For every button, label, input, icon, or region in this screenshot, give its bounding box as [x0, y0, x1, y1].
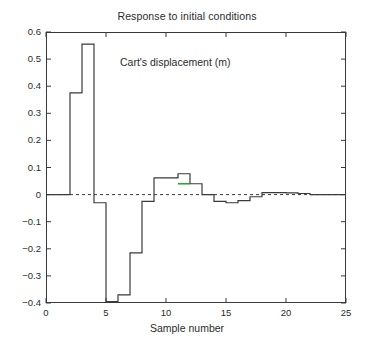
y-tick-label: −0.1 — [7, 216, 41, 227]
x-tick-label: 10 — [151, 307, 181, 318]
y-tick-label: 0.1 — [7, 162, 41, 173]
y-tick-label: 0.5 — [7, 53, 41, 64]
x-tick-marks — [46, 32, 346, 303]
chart-title: Response to initial conditions — [0, 10, 374, 22]
y-tick-label: 0 — [7, 189, 41, 200]
y-tick-marks — [46, 32, 346, 303]
figure-container: Response to initial conditions Cart's di… — [0, 0, 374, 348]
plot-frame — [47, 33, 346, 303]
y-tick-label: 0.3 — [7, 107, 41, 118]
x-tick-label: 5 — [91, 307, 121, 318]
y-tick-label: −0.2 — [7, 243, 41, 254]
x-tick-label: 25 — [331, 307, 361, 318]
y-tick-label: 0.4 — [7, 80, 41, 91]
x-tick-label: 20 — [271, 307, 301, 318]
y-tick-label: 0.2 — [7, 134, 41, 145]
data-stairstep-line — [46, 44, 346, 301]
plot-svg — [46, 32, 346, 303]
x-tick-label: 15 — [211, 307, 241, 318]
x-axis-label: Sample number — [0, 322, 374, 334]
x-tick-label: 0 — [31, 307, 61, 318]
y-tick-label: −0.3 — [7, 270, 41, 281]
plot-area — [46, 32, 346, 303]
y-tick-label: 0.6 — [7, 26, 41, 37]
